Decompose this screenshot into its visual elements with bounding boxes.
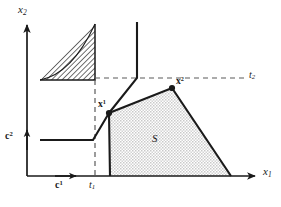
lower-left-boundary [40, 113, 109, 140]
c1-vector-label: c1 [55, 180, 63, 190]
t2-label-subscript: 2 [252, 73, 255, 80]
x2-point-label: x2 [176, 76, 184, 86]
c1-vector-label-superscript: 1 [59, 179, 62, 186]
region-s-fill [109, 88, 231, 176]
x1-point-label-superscript: 1 [103, 98, 106, 105]
y-axis-label: x2 [18, 4, 27, 16]
x2-point-marker [169, 85, 175, 91]
t1-label: t1 [89, 180, 95, 191]
c2-vector-label-superscript: 2 [9, 130, 12, 137]
region-s-label: S [152, 133, 158, 144]
t2-label: t2 [249, 70, 255, 81]
x2-point-label-superscript: 2 [181, 75, 184, 82]
upper-vertical-boundary [109, 22, 137, 113]
x1-point-marker [106, 110, 112, 116]
x-axis-label-subscript: 1 [268, 170, 272, 179]
diagram-canvas [0, 0, 281, 207]
x1-point-label: x1 [98, 99, 106, 109]
x-axis-label: x1 [263, 166, 272, 178]
t1-label-subscript: 1 [92, 183, 95, 190]
c2-vector-label: c2 [5, 131, 13, 141]
y-axis-label-subscript: 2 [23, 8, 27, 17]
hatched-triangle-fill [40, 24, 95, 80]
figure-container: x2 x1 t1 t2 c1 c2 x1 x2 S [0, 0, 281, 207]
